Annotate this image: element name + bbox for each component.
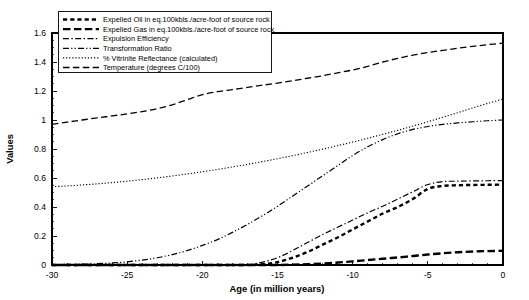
legend-label-0: Expelled Oil in eq.100kbls./acre-foot of… <box>103 15 270 24</box>
y-tick-label: 0.2 <box>34 231 46 241</box>
legend-label-4: % Vitrinite Reflectance (calculated) <box>103 54 217 63</box>
x-axis-title: Age (in million years) <box>230 283 325 294</box>
x-tick-label: -10 <box>346 270 359 280</box>
x-tick-label: -30 <box>46 270 59 280</box>
chart-legend: Expelled Oil in eq.100kbls./acre-foot of… <box>58 11 275 72</box>
legend-label-3: Transformation Ratio <box>103 44 172 53</box>
legend-label-5: Temperature (degrees C/100) <box>103 63 200 72</box>
legend-label-1: Expelled Gas in eq.100kbls./acre-foot of… <box>103 25 275 34</box>
y-tick-label: 1.6 <box>34 28 46 38</box>
x-tick-label: 0 <box>501 270 506 280</box>
chart-figure: 00.20.40.60.811.21.41.6 -30-25-20-15-10-… <box>0 0 529 300</box>
y-tick-label: 0.4 <box>34 202 46 212</box>
x-tick-label: -5 <box>424 270 432 280</box>
y-tick-label: 1.2 <box>34 86 46 96</box>
y-tick-label: 0 <box>41 260 46 270</box>
y-tick-label: 0.6 <box>34 173 46 183</box>
x-tick-label: -20 <box>196 270 209 280</box>
y-tick-label: 1 <box>41 115 46 125</box>
y-tick-label: 1.4 <box>34 57 46 67</box>
y-axis-title: Values <box>4 134 15 164</box>
x-tick-label: -15 <box>271 270 284 280</box>
x-tick-label: -25 <box>121 270 134 280</box>
line-chart: 00.20.40.60.811.21.41.6 -30-25-20-15-10-… <box>0 0 529 300</box>
legend-label-2: Expulsion Efficiency <box>103 34 169 43</box>
y-tick-label: 0.8 <box>34 144 46 154</box>
